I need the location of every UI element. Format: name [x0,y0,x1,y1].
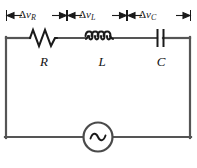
dimension-label-delta-v-C: ΔvC [139,9,156,22]
subscript-vR: R [31,13,36,22]
capacitor-label: C [151,55,171,68]
resistor-label: R [34,55,54,68]
circuit-schematic-svg [0,0,197,168]
subscript-vC: C [151,13,156,22]
circuit-diagram-figure: ΔvR ΔvL ΔvC R L C [0,0,197,168]
dimension-label-delta-v-L: ΔvL [79,9,95,22]
dim-arrow-group-vR [7,13,67,19]
dimension-label-delta-v-R: ΔvR [19,9,36,22]
resistor-symbol [30,30,57,46]
dim-arrow-group-vC [128,13,190,19]
subscript-vL: L [91,13,95,22]
inductor-symbol [86,32,114,40]
dim-arrow-group-vL [68,13,127,19]
ac-source-symbol [84,123,113,152]
inductor-label: L [92,55,112,68]
capacitor-symbol [158,29,164,47]
